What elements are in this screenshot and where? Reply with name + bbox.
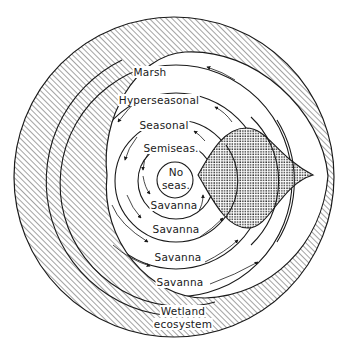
label-no-seasonal-line2: seas. <box>162 179 190 191</box>
label-no-seasonal-line1: No <box>169 166 184 178</box>
label-marsh: Marsh <box>133 66 168 78</box>
label-savanna-1: Savanna <box>150 199 199 211</box>
label-ecosystem: ecosystem <box>153 318 213 330</box>
wetland-diagram: Marsh Hyperseasonal Seasonal Semiseas. N… <box>0 0 342 352</box>
label-hyperseasonal: Hyperseasonal <box>118 94 200 106</box>
label-wetland: Wetland <box>160 305 206 317</box>
label-savanna-2: Savanna <box>152 223 201 235</box>
label-semiseasonal: Semiseas. <box>142 142 199 154</box>
label-savanna-4: Savanna <box>156 276 205 288</box>
label-seasonal: Seasonal <box>138 119 189 131</box>
label-savanna-3: Savanna <box>154 251 203 263</box>
